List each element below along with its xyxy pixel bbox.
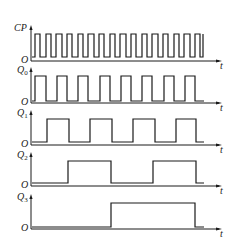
signal-label-q2: Q2 <box>17 149 28 162</box>
waveform-q3 <box>32 203 204 227</box>
signal-label-q1: Q1 <box>17 107 28 120</box>
origin-label: O <box>21 222 28 233</box>
timing-diagram: tOCPtOQ0tOQ1tOQ2tOQ3 <box>0 0 241 250</box>
t-axis-label: t <box>220 60 223 71</box>
t-axis-label: t <box>220 228 223 239</box>
origin-label: O <box>21 96 28 107</box>
y-axis-arrow-icon <box>29 194 32 199</box>
waveform-q1 <box>32 119 204 142</box>
y-axis-arrow-icon <box>29 110 32 115</box>
signal-label-cp: CP <box>14 22 27 33</box>
y-axis-arrow-icon <box>29 25 32 30</box>
t-axis-label: t <box>220 144 223 155</box>
waveform-cp <box>32 34 203 57</box>
signal-q1: tOQ1 <box>17 107 223 155</box>
signal-cp: tOCP <box>14 22 223 71</box>
signal-q3: tOQ3 <box>17 191 223 239</box>
waveform-q2 <box>32 161 204 183</box>
y-axis-arrow-icon <box>29 152 32 157</box>
origin-label: O <box>21 179 28 190</box>
signal-label-q3: Q3 <box>17 191 28 204</box>
signal-q0: tOQ0 <box>17 64 223 113</box>
waveform-q0 <box>32 76 204 101</box>
t-axis-label: t <box>220 102 223 113</box>
t-axis-label: t <box>220 185 223 196</box>
y-axis-arrow-icon <box>29 67 32 72</box>
signal-label-q0: Q0 <box>17 64 28 77</box>
origin-label: O <box>21 138 28 149</box>
signal-q2: tOQ2 <box>17 149 223 196</box>
